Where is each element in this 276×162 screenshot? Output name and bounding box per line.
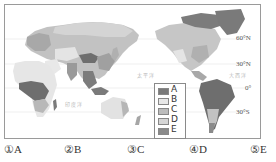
legend-label-e: E (171, 124, 177, 134)
central-america (191, 71, 207, 81)
latitude-label-equator: 0° (245, 84, 251, 92)
madagascar (53, 99, 57, 111)
option-4[interactable]: ④D (189, 143, 207, 156)
greenland (215, 9, 245, 35)
ocean-label-atlantic: 大西洋 (229, 71, 247, 78)
option-2[interactable]: ②B (64, 143, 81, 156)
legend-item-e: E (158, 126, 184, 135)
legend-swatch-e (158, 128, 169, 135)
siberia-zone (53, 22, 133, 37)
india-zone (67, 63, 77, 81)
legend-swatch-d (158, 118, 169, 125)
world-map: 60°N 30°N 0° 30°S 太平洋 大西洋 印度洋 (4, 4, 261, 139)
legend-swatch-c (158, 108, 169, 115)
answer-options: ①A ②B ③C ④D ⑤E (0, 143, 276, 161)
new-zealand (135, 115, 141, 125)
ocean-label-indian: 印度洋 (65, 100, 83, 107)
option-1[interactable]: ①A (4, 143, 22, 156)
south-america-landmass (199, 79, 235, 131)
legend-label-a: A (171, 84, 177, 94)
legend-swatch-b (158, 98, 169, 105)
legend-label-c: C (171, 104, 177, 114)
map-graphic (5, 5, 260, 138)
latitude-label-30n: 30°N (236, 60, 251, 68)
map-legend: A B C D E (154, 83, 186, 139)
option-3[interactable]: ③C (127, 143, 144, 156)
legend-swatch-a (158, 88, 169, 95)
latitude-label-60n: 60°N (236, 34, 251, 42)
ocean-label-pacific: 太平洋 (137, 71, 155, 78)
legend-label-d: D (171, 114, 178, 124)
latitude-label-30s: 30°S (236, 108, 250, 116)
option-5[interactable]: ⑤E (250, 143, 267, 156)
legend-label-b: B (171, 94, 177, 104)
